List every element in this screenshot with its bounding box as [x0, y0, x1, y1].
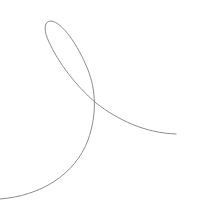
- drawing-canvas: [0, 0, 197, 216]
- curve-drawing: [0, 0, 197, 216]
- looped-curve-line: [0, 21, 176, 199]
